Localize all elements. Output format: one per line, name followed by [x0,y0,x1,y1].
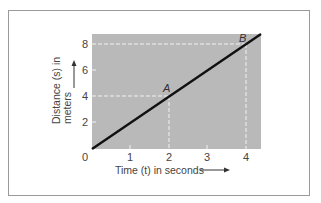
y-tick-4: 4 [82,90,88,102]
x-axis-label: Time (t) in seconds [115,164,204,176]
y-axis-label-line2: meters [61,92,73,124]
y-tick-2: 2 [82,116,88,128]
y-axis-arrow-icon [72,60,77,88]
origin-label: 0 [82,151,88,163]
x-tick-4: 4 [243,151,249,163]
y-tick-8: 8 [82,38,88,50]
point-a-label: A [162,82,170,94]
x-tick-1: 1 [127,151,133,163]
x-tick-3: 3 [204,151,210,163]
y-axis-label: Distance (s) in meters [50,57,73,124]
distance-time-chart: A B 8 6 4 2 0 1 2 3 4 Time (t) in second… [0,0,321,203]
point-b-label: B [239,32,246,44]
x-axis-arrow-icon [200,168,230,173]
y-tick-6: 6 [82,64,88,76]
x-tick-2: 2 [166,151,172,163]
